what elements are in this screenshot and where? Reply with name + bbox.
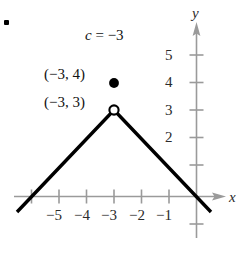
c-variable: c	[85, 27, 92, 43]
x-tick-label-minus5: −5	[46, 208, 62, 223]
y-tick-label-5: 5	[165, 48, 173, 63]
open-circle-marker	[109, 105, 118, 114]
y-axis-label: y	[192, 6, 199, 21]
x-tick-label-minus2: −2	[129, 208, 145, 223]
y-tick-label-2: 2	[165, 130, 173, 145]
c-value-rest: = −3	[92, 27, 124, 43]
point-label-minus3-4: (−3, 4)	[44, 67, 85, 82]
graph-figure: 5 4 3 2 −5 −4 −3 −2 −1 y x c = −3 (−3, 4…	[0, 0, 245, 254]
y-tick-label-4: 4	[165, 75, 173, 90]
point-label-minus3-3: (−3, 3)	[44, 95, 85, 110]
x-tick-label-minus1: −1	[156, 208, 172, 223]
y-tick-label-3: 3	[165, 103, 173, 118]
c-value-annotation: c = −3	[85, 28, 124, 43]
x-axis-label: x	[229, 190, 236, 205]
filled-dot-marker	[109, 78, 119, 88]
x-tick-label-minus3: −3	[101, 208, 117, 223]
x-tick-label-minus4: −4	[74, 208, 90, 223]
